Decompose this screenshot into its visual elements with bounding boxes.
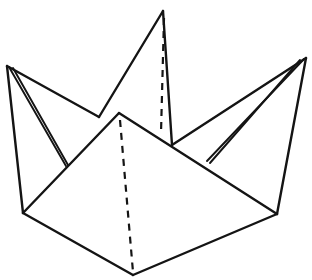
origami-drawing — [0, 0, 312, 280]
origami-figure-canvas — [0, 0, 312, 280]
